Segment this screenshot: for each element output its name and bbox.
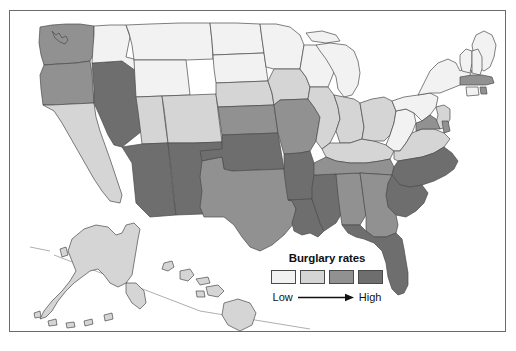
state-AK[interactable] (40, 223, 140, 319)
figure-container: Burglary rates Low High (0, 0, 516, 351)
state-AK-aleutian-5[interactable] (84, 319, 93, 326)
legend: Burglary rates Low High (262, 251, 392, 317)
state-SD[interactable] (213, 53, 268, 83)
state-AK-aleutian-1[interactable] (60, 247, 68, 257)
state-HI-molokai[interactable] (196, 277, 210, 285)
state-ND[interactable] (210, 23, 264, 55)
state-CO[interactable] (162, 94, 222, 143)
state-HI-group[interactable] (162, 261, 256, 331)
state-HI-lanai[interactable] (196, 291, 205, 297)
state-TX[interactable] (200, 157, 296, 251)
state-MT[interactable] (126, 23, 213, 60)
state-AK-group[interactable] (34, 223, 146, 328)
state-CT[interactable] (466, 87, 479, 96)
state-MO[interactable] (274, 99, 320, 154)
state-HI-kauai[interactable] (162, 261, 174, 271)
state-KS[interactable] (218, 105, 278, 135)
legend-scale-row: Low High (262, 291, 392, 303)
state-AK-aleutian-4[interactable] (66, 322, 75, 328)
state-AK-aleutian-6[interactable] (104, 313, 113, 321)
state-WA[interactable] (39, 24, 94, 65)
map-frame: Burglary rates Low High (9, 10, 506, 332)
right-arrow-icon (297, 293, 355, 302)
state-DE[interactable] (442, 121, 450, 133)
state-AK-aleutian-2[interactable] (34, 311, 41, 318)
legend-swatch-4[interactable] (358, 270, 383, 284)
legend-title: Burglary rates (262, 251, 392, 265)
state-HI-oahu[interactable] (180, 269, 194, 281)
legend-high-label: High (359, 291, 382, 303)
state-VT[interactable] (460, 49, 472, 73)
alaska-inset-edge-line (30, 247, 50, 251)
legend-swatch-row (262, 270, 392, 284)
legend-swatch-1[interactable] (271, 270, 296, 284)
legend-swatch-3[interactable] (329, 270, 354, 284)
state-WY[interactable] (134, 60, 190, 97)
state-OR[interactable] (40, 61, 94, 105)
state-AK-aleutian-3[interactable] (48, 319, 57, 326)
state-HI-bigisland[interactable] (222, 299, 256, 331)
state-AZ[interactable] (122, 143, 176, 217)
state-AK-kodiak[interactable] (126, 283, 146, 309)
us-choropleth-map[interactable] (10, 11, 507, 333)
state-NE[interactable] (216, 81, 274, 107)
legend-swatch-2[interactable] (300, 270, 325, 284)
state-AR[interactable] (284, 151, 316, 200)
state-RI[interactable] (480, 87, 487, 94)
state-HI-maui[interactable] (206, 285, 224, 297)
legend-low-label: Low (273, 291, 293, 303)
state-MN[interactable] (260, 24, 304, 69)
state-MA[interactable] (460, 75, 494, 85)
